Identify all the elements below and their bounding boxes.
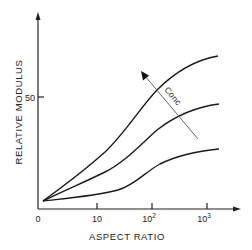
y-axis-label: RELATIVE MODULUS [13,60,24,165]
conc-label: Conc [162,85,183,108]
y-axis-arrow-icon [36,12,41,20]
chart: 50 0 10 102 103 ASPECT RATIO RELATIVE MO… [0,0,252,250]
x-axis-label: ASPECT RATIO [89,231,165,242]
x-tick-label-1000-exp: 3 [207,212,211,219]
curve-low-concentration [43,149,219,201]
x-tick-label-100-exp: 2 [152,212,156,219]
x-tick-label-1000-base: 10 [197,214,207,224]
y-tick-label-50: 50 [25,93,35,103]
curve-high-concentration [43,56,218,201]
x-tick-label-100: 102 [142,212,156,224]
x-axis-arrow-icon [233,207,241,212]
x-tick-label-0: 0 [35,214,40,224]
x-tick-label-1000: 103 [197,212,211,224]
x-tick-label-10: 10 [92,214,102,224]
x-tick-label-100-base: 10 [142,214,152,224]
